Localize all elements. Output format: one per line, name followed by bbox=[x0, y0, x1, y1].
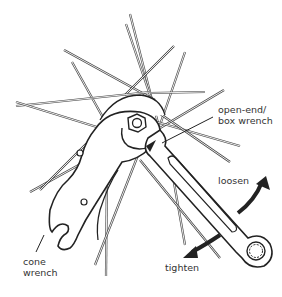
hub-wrench-diagram bbox=[0, 0, 282, 297]
label-open-end-box-wrench: open-end/ box wrench bbox=[218, 104, 273, 126]
cone-wrench bbox=[49, 111, 160, 249]
label-cone-wrench: cone wrench bbox=[23, 256, 58, 278]
tighten-arrow-icon bbox=[183, 235, 220, 258]
leader-cone-wrench bbox=[36, 235, 44, 252]
locknut bbox=[128, 114, 146, 132]
label-loosen: loosen bbox=[218, 175, 249, 186]
label-tighten: tighten bbox=[165, 262, 199, 273]
